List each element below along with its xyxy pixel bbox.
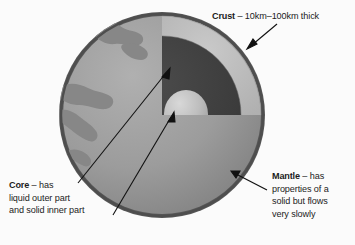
core-label-term: Core — [9, 180, 29, 190]
mantle-label-has: has — [310, 171, 324, 181]
core-label-line1: Core – has — [9, 179, 84, 192]
core-label-has: has — [39, 180, 53, 190]
mantle-label-line1: Mantle – has — [272, 170, 329, 183]
mantle-label-line2: properties of a — [272, 183, 329, 196]
crust-label-term: Crust — [212, 11, 235, 21]
crust-label-description: 10km–100km thick — [245, 11, 319, 21]
crust-label-dash: – — [237, 11, 242, 21]
crust-label: Crust – 10km–100km thick — [212, 10, 319, 23]
core-label: Core – has liquid outer part and solid i… — [9, 179, 84, 217]
mantle-label-term: Mantle — [272, 171, 300, 181]
mantle-label-line3: solid but flows — [272, 195, 329, 208]
crust-arrow — [247, 24, 277, 49]
mantle-label: Mantle – has properties of a solid but f… — [272, 170, 329, 220]
mantle-label-dash: – — [302, 171, 307, 181]
core-label-dash: – — [32, 180, 37, 190]
core-label-line3: and solid inner part — [9, 204, 84, 217]
mantle-label-line4: very slowly — [272, 208, 329, 221]
core-label-line2: liquid outer part — [9, 192, 84, 205]
earth-cutaway-diagram: Crust – 10km–100km thick Core – has liqu… — [0, 0, 355, 245]
